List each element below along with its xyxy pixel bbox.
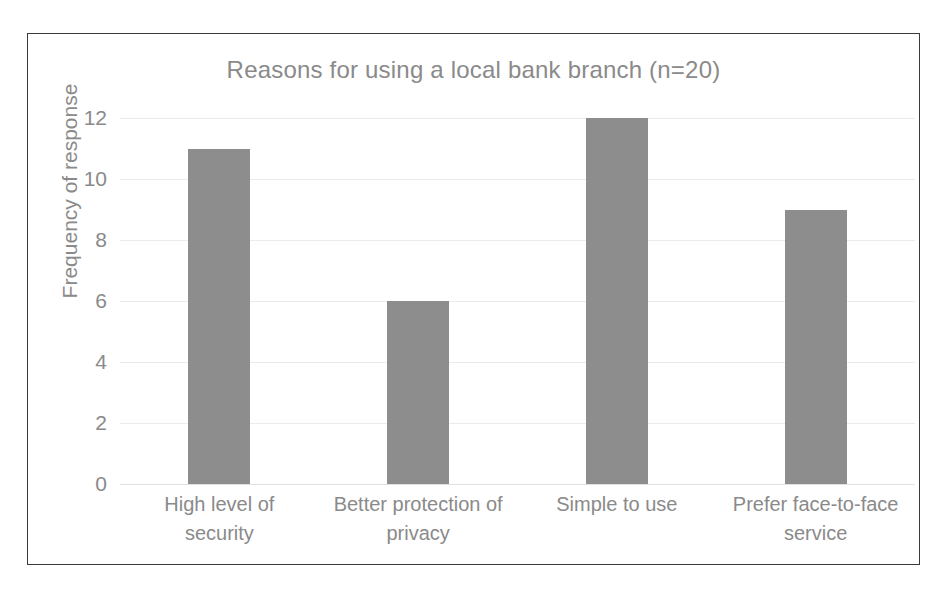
x-tick-label-line: service xyxy=(716,519,915,548)
x-tick-label-line: security xyxy=(120,519,319,548)
x-tick-label: Prefer face-to-faceservice xyxy=(716,490,915,548)
bar-slot xyxy=(319,118,518,484)
bar[interactable] xyxy=(387,301,449,484)
x-tick-label-line: Prefer face-to-face xyxy=(716,490,915,519)
x-tick-label-line: privacy xyxy=(319,519,518,548)
x-axis-line xyxy=(120,484,915,485)
y-tick-label: 0 xyxy=(95,472,107,496)
x-tick-label: Simple to use xyxy=(518,490,717,519)
chart-title: Reasons for using a local bank branch (n… xyxy=(28,56,919,84)
x-axis-tick-labels: High level ofsecurityBetter protection o… xyxy=(120,490,915,560)
y-tick-label: 12 xyxy=(84,106,107,130)
x-tick-label: High level ofsecurity xyxy=(120,490,319,548)
bar[interactable] xyxy=(188,149,250,485)
bar[interactable] xyxy=(586,118,648,484)
y-tick-label: 2 xyxy=(95,411,107,435)
bar-slot xyxy=(716,118,915,484)
x-tick-label-line: High level of xyxy=(120,490,319,519)
x-tick-label: Better protection ofprivacy xyxy=(319,490,518,548)
bar-slot xyxy=(518,118,717,484)
y-tick-label: 6 xyxy=(95,289,107,313)
bar[interactable] xyxy=(785,210,847,485)
x-tick-label-line: Better protection of xyxy=(319,490,518,519)
y-tick-label: 8 xyxy=(95,228,107,252)
y-tick-label: 4 xyxy=(95,350,107,374)
y-tick-label: 10 xyxy=(84,167,107,191)
chart-container: Reasons for using a local bank branch (n… xyxy=(27,33,920,565)
plot-area: 024681012 xyxy=(120,118,915,484)
chart-plot-region: Reasons for using a local bank branch (n… xyxy=(28,34,919,564)
x-tick-label-line: Simple to use xyxy=(518,490,717,519)
bar-series xyxy=(120,118,915,484)
y-axis-title: Frequency of response xyxy=(58,51,82,331)
bar-slot xyxy=(120,118,319,484)
